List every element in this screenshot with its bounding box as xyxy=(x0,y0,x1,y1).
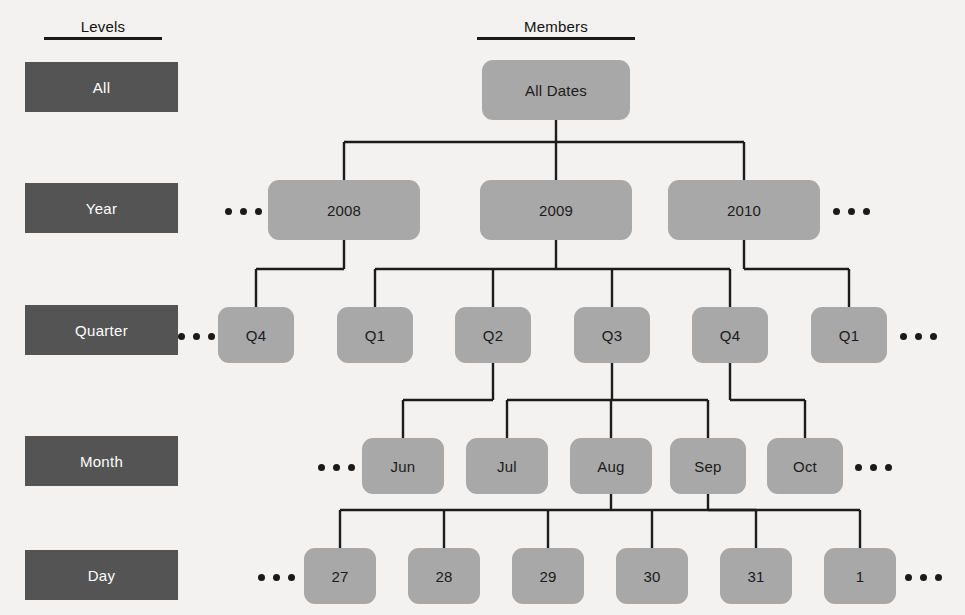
member-node-m-jun[interactable]: Jun xyxy=(362,438,444,494)
column-header-levels-label: Levels xyxy=(44,18,162,35)
member-node-y2010[interactable]: 2010 xyxy=(668,180,820,240)
level-label-year[interactable]: Year xyxy=(25,183,178,233)
member-node-m-sep[interactable]: Sep xyxy=(670,438,746,494)
member-node-y2008[interactable]: 2008 xyxy=(268,180,420,240)
level-label-day[interactable]: Day xyxy=(25,550,178,600)
ell-year-right-icon xyxy=(833,206,870,216)
member-node-d-28[interactable]: 28 xyxy=(408,548,480,604)
column-header-levels: Levels xyxy=(44,18,162,40)
member-node-q2010-1[interactable]: Q1 xyxy=(811,307,887,363)
member-node-d-30[interactable]: 30 xyxy=(616,548,688,604)
ell-month-right-icon xyxy=(855,462,892,472)
ell-quarter-right-icon xyxy=(900,331,937,341)
level-label-all[interactable]: All xyxy=(25,62,178,112)
level-label-month[interactable]: Month xyxy=(25,436,178,486)
ell-month-left-icon xyxy=(318,462,355,472)
ell-year-left-icon xyxy=(225,206,262,216)
member-node-m-aug[interactable]: Aug xyxy=(570,438,652,494)
member-node-all-dates[interactable]: All Dates xyxy=(482,60,630,120)
column-header-members: Members xyxy=(477,18,635,40)
member-node-d-31[interactable]: 31 xyxy=(720,548,792,604)
ell-day-left-icon xyxy=(258,572,295,582)
ell-quarter-left-icon xyxy=(178,331,215,341)
member-node-d-29[interactable]: 29 xyxy=(512,548,584,604)
column-header-levels-rule xyxy=(44,37,162,40)
level-label-quarter[interactable]: Quarter xyxy=(25,305,178,355)
member-node-q2009-4[interactable]: Q4 xyxy=(692,307,768,363)
column-header-members-rule xyxy=(477,37,635,40)
member-node-m-jul[interactable]: Jul xyxy=(466,438,548,494)
member-node-q2008-4[interactable]: Q4 xyxy=(218,307,294,363)
member-node-q2009-2[interactable]: Q2 xyxy=(455,307,531,363)
member-node-q2009-3[interactable]: Q3 xyxy=(574,307,650,363)
ell-day-right-icon xyxy=(905,572,942,582)
member-node-m-oct[interactable]: Oct xyxy=(767,438,843,494)
member-node-q2009-1[interactable]: Q1 xyxy=(337,307,413,363)
column-header-members-label: Members xyxy=(477,18,635,35)
member-node-d-1[interactable]: 1 xyxy=(824,548,896,604)
hierarchy-diagram: Levels Members AllYearQuarterMonthDay Al… xyxy=(0,0,965,615)
member-node-y2009[interactable]: 2009 xyxy=(480,180,632,240)
member-node-d-27[interactable]: 27 xyxy=(304,548,376,604)
